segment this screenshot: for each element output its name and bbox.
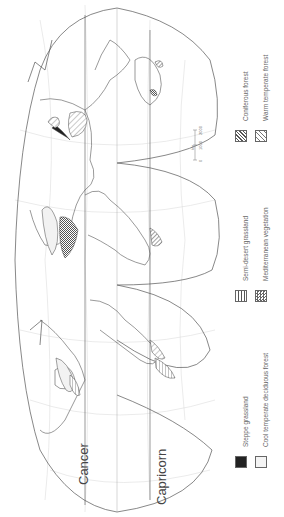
legend-swatch-steppe: [235, 456, 247, 468]
graticule: [15, 5, 215, 512]
scale-label-1000: 1000: [198, 141, 203, 150]
legend-swatch-semi: [235, 290, 247, 302]
region-med-safrica: [150, 228, 162, 246]
vegetation-regions: [42, 61, 175, 396]
region-semi-samerica: [155, 358, 175, 378]
legend-label-semi: Semi-desert grassland: [242, 216, 249, 281]
legend-swatch-cool: [255, 456, 267, 468]
legend-label-cool: Cool temperate deciduous forest: [262, 353, 269, 447]
region-semi-namerica: [70, 375, 80, 396]
legend-label-conif: Coniferous forest: [242, 72, 249, 122]
region-cool-europe: [42, 207, 58, 255]
region-conif-australia: [155, 61, 163, 68]
legend-swatch-warm: [255, 130, 267, 142]
legend-label-warm: Warm temperate forest: [262, 55, 269, 121]
scale-label-0: 0: [198, 160, 203, 162]
tropic-of-capricorn-label: Capricorn: [154, 449, 169, 505]
scale-unit: km: [190, 145, 195, 150]
legend-swatch-med: [255, 290, 267, 302]
region-conif-asia: [68, 112, 87, 137]
reference-lines: [85, 8, 150, 512]
region-med-australia: [150, 90, 157, 96]
scale-label-2000: 2000: [198, 126, 203, 135]
region-med-europe: [60, 217, 78, 258]
region-warm-samerica: [150, 340, 165, 359]
legend-label-steppe: Steppe grassland: [242, 396, 249, 447]
legend-swatch-conif: [235, 130, 247, 142]
tropic-of-cancer-label: Cancer: [76, 443, 91, 485]
region-warm-asia: [48, 117, 59, 128]
legend-label-med: Mediterranean vegetation: [262, 207, 269, 281]
